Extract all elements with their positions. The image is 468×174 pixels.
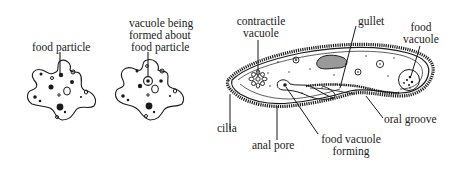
amoeba-1-food-particles [33,73,82,114]
label-oral-groove: oral groove [384,113,437,125]
amoeba-2-vacuoles [145,65,177,118]
label-contractile-line-2: vacuole [230,27,292,39]
label-food-vacuole-line-1: food [396,21,446,33]
label-contractile-vacuole: contractile vacuole [230,15,292,39]
label-vacuole-line-3: food particle [129,41,209,53]
forming-vacuole-particle [283,83,287,87]
label-forming-line-1: food vacuole [312,133,390,145]
label-food-particle: food particle [32,41,90,53]
amoeba-1-vacuoles [51,70,88,119]
label-food-vacuole: food vacuole [396,21,446,45]
label-food-vacuole-forming: food vacuole forming [312,133,390,157]
label-cilia: cilia [217,122,237,134]
label-forming-line-2: forming [312,145,390,157]
amoeba-2-illustration [116,52,184,120]
amoeba-2-food-particles [121,70,171,114]
label-gullet: gullet [358,15,384,27]
label-food-vacuole-line-2: vacuole [396,33,446,45]
label-anal-pore: anal pore [252,139,294,151]
nucleus [317,55,347,69]
diagram-canvas: food particle vacuole being formed about… [0,0,468,174]
label-vacuole-line-2: formed about [129,29,209,41]
label-contractile-line-1: contractile [230,15,292,27]
label-vacuole-line-1: vacuole being [129,17,209,29]
label-vacuole-being-formed: vacuole being formed about food particle [129,17,209,53]
